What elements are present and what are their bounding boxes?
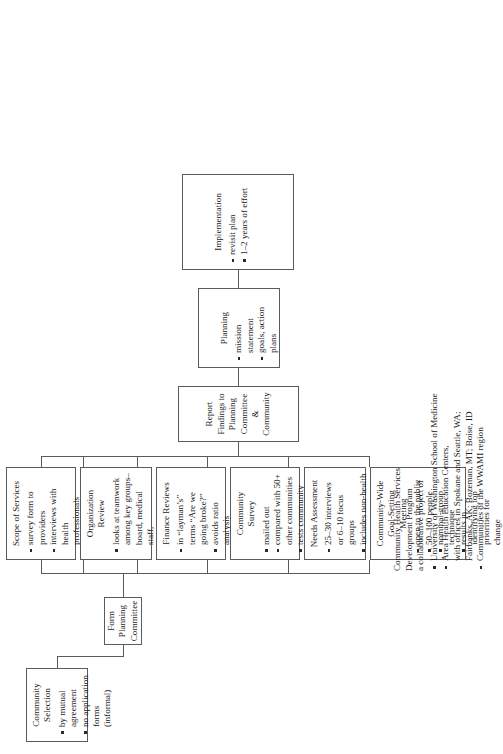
bullet-item: 1–2 years of effort <box>239 180 250 255</box>
box-title: Needs Assessment <box>309 473 320 554</box>
caption-bullet-item: University of Washington School of Medic… <box>429 321 441 561</box>
bullet-item: survey form to providers <box>25 473 48 545</box>
bullet-item: compared with 50+ other communities <box>272 473 295 545</box>
bullet-item: interviews with health professionals <box>48 473 82 545</box>
caption-line-3: a collaborative project of <box>415 321 427 571</box>
bullet-item: by mutual agreement <box>57 674 80 727</box>
bullet-item: mailed out <box>261 473 272 545</box>
box-planning[interactable]: Planning mission statement goals, action… <box>198 288 280 368</box>
bullet-item: mission statement <box>233 294 256 353</box>
box-organization-review[interactable]: Organization Review looks at teamwork am… <box>80 467 152 560</box>
branch-community-wide-meeting <box>369 560 370 574</box>
bullet-item: in “layman’s” terms “Are we going broke?… <box>175 473 209 545</box>
box-title: Implementation <box>213 180 224 264</box>
connector-report-to-planning <box>238 368 239 386</box>
branch-finance-reviews <box>137 560 138 574</box>
gather-needs <box>288 456 289 467</box>
connector-committee-stub <box>123 645 124 657</box>
bullet-list: by mutual agreement no application forms… <box>57 674 114 736</box>
box-title: Form Planning Committee <box>106 601 140 641</box>
connector-selection-to-committee <box>57 656 123 657</box>
caption-bullet-list: University of Washington School of Medic… <box>429 321 487 571</box>
report-gather-spine <box>41 456 369 457</box>
caption-bullet-item: Communities of the WWAMI region <box>475 321 487 561</box>
branch-community-survey <box>207 560 208 574</box>
box-title: Community Selection <box>31 674 54 736</box>
box-title: Finance Reviews <box>161 473 172 554</box>
bullet-list: revisit plan 1–2 years of effort <box>227 180 250 264</box>
branch-needs-assessment <box>288 560 289 574</box>
gather-survey <box>207 456 208 467</box>
caption-bullet-item: Area Health Education Centers, with offi… <box>440 321 475 561</box>
gather-scope <box>41 456 42 467</box>
box-title: Report Findings to Planning Committee & … <box>204 392 272 436</box>
box-finance-reviews[interactable]: Finance Reviews in “layman’s” terms “Are… <box>156 467 226 560</box>
caption-line-2: Development Program <box>404 321 416 571</box>
bullet-item: no application forms (informal) <box>80 674 114 727</box>
assessment-spine <box>41 573 369 574</box>
gather-organization <box>83 456 84 467</box>
box-community-selection[interactable]: Community Selection by mutual agreement … <box>26 668 88 742</box>
branch-organization-review <box>83 560 84 574</box>
caption-line-1: Community Health Services <box>392 321 404 571</box>
box-needs-assessment[interactable]: Needs Assessment 25–30 interviews or 6–1… <box>304 467 366 560</box>
bullet-item: 25–30 interviews or 6–10 focus groups <box>323 473 357 545</box>
connector-committee-out <box>123 574 124 597</box>
box-report-findings[interactable]: Report Findings to Planning Committee & … <box>178 386 299 442</box>
gather-meeting <box>369 456 370 467</box>
box-form-planning-committee[interactable]: Form Planning Committee <box>104 597 142 645</box>
box-scope-of-services[interactable]: Scope of Services survey form to provide… <box>6 467 76 560</box>
bullet-list: mission statement goals, action plans <box>233 294 279 362</box>
box-title: Community Survey <box>235 473 258 554</box>
branch-scope-of-services <box>41 560 42 574</box>
caption-block: Community Health Services Development Pr… <box>392 321 487 571</box>
connector-selection-stub <box>57 656 58 668</box>
box-community-survey[interactable]: Community Survey mailed out compared wit… <box>230 467 300 560</box>
box-title: Organization Review <box>85 473 108 554</box>
gather-finance <box>137 456 138 467</box>
bullet-item: goals, action plans <box>256 294 279 353</box>
box-implementation[interactable]: Implementation revisit plan 1–2 years of… <box>182 174 294 270</box>
box-title: Planning <box>219 294 230 362</box>
connector-report-in <box>238 442 239 457</box>
connector-planning-to-implementation <box>238 270 239 288</box>
bullet-item: revisit plan <box>227 180 238 255</box>
box-title: Scope of Services <box>11 473 22 554</box>
